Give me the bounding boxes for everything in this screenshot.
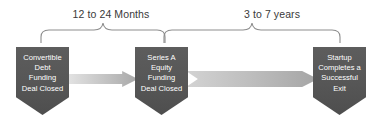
stage-node-convertible-debt[interactable]: Convertible Debt Funding Deal Closed: [16, 47, 69, 115]
span-label-second: 3 to 7 years: [212, 8, 332, 20]
stage-node-label: Series A Equity Funding Deal Closed: [135, 53, 188, 94]
span-label-first: 12 to 24 Months: [51, 8, 171, 20]
funding-timeline-diagram: 12 to 24 Months 3 to 7 years Convertible…: [0, 0, 389, 128]
stage-node-label: Convertible Debt Funding Deal Closed: [16, 53, 69, 94]
stage-node-series-a-equity[interactable]: Series A Equity Funding Deal Closed: [135, 47, 188, 115]
brace-second-icon: [163, 22, 341, 44]
stage-node-successful-exit[interactable]: Startup Completes a Successful Exit: [313, 47, 366, 115]
brace-first-icon: [40, 22, 166, 44]
stage-node-label: Startup Completes a Successful Exit: [313, 53, 366, 94]
right-arrow-icon: [66, 71, 138, 87]
chevron-arrow-icon: [186, 71, 318, 87]
